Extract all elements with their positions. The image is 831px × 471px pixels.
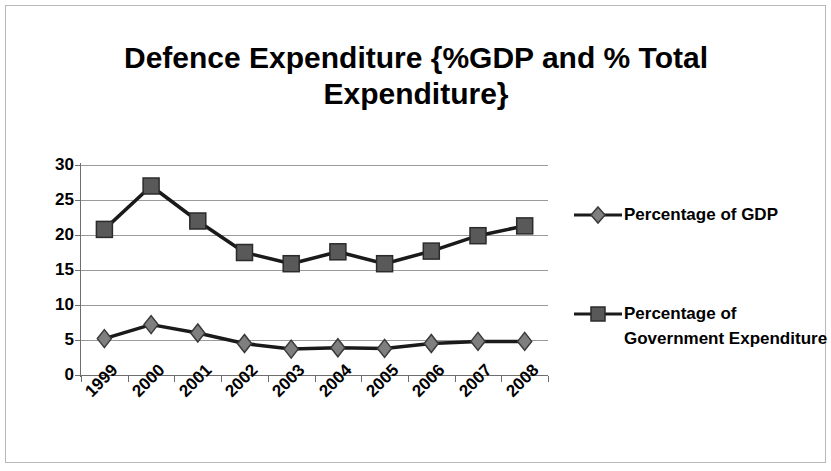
data-point-marker <box>284 340 298 358</box>
square-marker-icon <box>572 301 624 327</box>
data-point-marker <box>96 221 112 237</box>
data-series-layer <box>81 165 548 375</box>
y-axis-tick-label: 30 <box>34 156 74 173</box>
data-point-marker <box>190 213 206 229</box>
y-axis-tick-mark <box>75 375 80 376</box>
data-point-marker <box>518 332 532 350</box>
data-point-marker <box>378 339 392 357</box>
chart-title: Defence Expenditure {%GDP and % Total Ex… <box>66 40 766 112</box>
x-axis-tick-mark <box>455 376 456 382</box>
y-axis-tick-mark <box>75 340 80 341</box>
legend-item-percentage-of-gdp: Percentage of GDP <box>572 202 831 228</box>
y-axis-tick-labels: 051015202530 <box>30 6 74 471</box>
y-axis-tick-label: 0 <box>34 366 74 383</box>
data-point-marker <box>144 316 158 334</box>
x-axis-tick-mark <box>81 376 82 382</box>
plot-area <box>81 165 548 375</box>
x-axis-tick-mark <box>548 376 549 382</box>
data-point-marker <box>470 228 486 244</box>
y-axis-tick-mark <box>75 235 80 236</box>
data-point-marker <box>423 243 439 259</box>
y-axis-tick-label: 25 <box>34 191 74 208</box>
x-axis-tick-mark <box>501 376 502 382</box>
data-point-marker <box>143 178 159 194</box>
legend-label-percentage-of-government-expenditure: Percentage of Government Expenditure <box>624 301 829 351</box>
x-axis-tick-mark <box>268 376 269 382</box>
data-point-marker <box>424 335 438 353</box>
y-axis-tick-mark <box>75 270 80 271</box>
data-point-marker <box>191 324 205 342</box>
chart-frame: Defence Expenditure {%GDP and % Total Ex… <box>5 5 826 463</box>
y-axis-tick-label: 20 <box>34 226 74 243</box>
data-point-marker <box>517 218 533 234</box>
x-axis-tick-mark <box>221 376 222 382</box>
data-point-marker <box>97 330 111 348</box>
legend-label-percentage-of-gdp: Percentage of GDP <box>624 202 778 227</box>
legend-item-percentage-of-government-expenditure: Percentage of Government Expenditure <box>572 301 831 351</box>
data-point-marker <box>330 244 346 260</box>
data-point-marker <box>471 332 485 350</box>
y-axis-tick-label: 10 <box>34 296 74 313</box>
x-axis-tick-mark <box>128 376 129 382</box>
data-point-marker <box>331 339 345 357</box>
x-axis-tick-mark <box>174 376 175 382</box>
data-point-marker <box>237 245 253 261</box>
data-point-marker <box>283 256 299 272</box>
series-line-1 <box>104 186 524 264</box>
y-axis-tick-label: 5 <box>34 331 74 348</box>
data-point-marker <box>237 335 251 353</box>
x-axis-tick-mark <box>315 376 316 382</box>
y-axis-tick-mark <box>75 305 80 306</box>
y-axis-tick-mark <box>75 165 80 166</box>
diamond-marker-icon <box>572 202 624 228</box>
x-axis-tick-mark <box>361 376 362 382</box>
chart-legend: Percentage of GDP Percentage of Governme… <box>572 202 831 351</box>
y-axis-tick-mark <box>75 200 80 201</box>
series-line-0 <box>104 325 524 350</box>
y-axis-tick-label: 15 <box>34 261 74 278</box>
data-point-marker <box>377 256 393 272</box>
x-axis-tick-mark <box>408 376 409 382</box>
